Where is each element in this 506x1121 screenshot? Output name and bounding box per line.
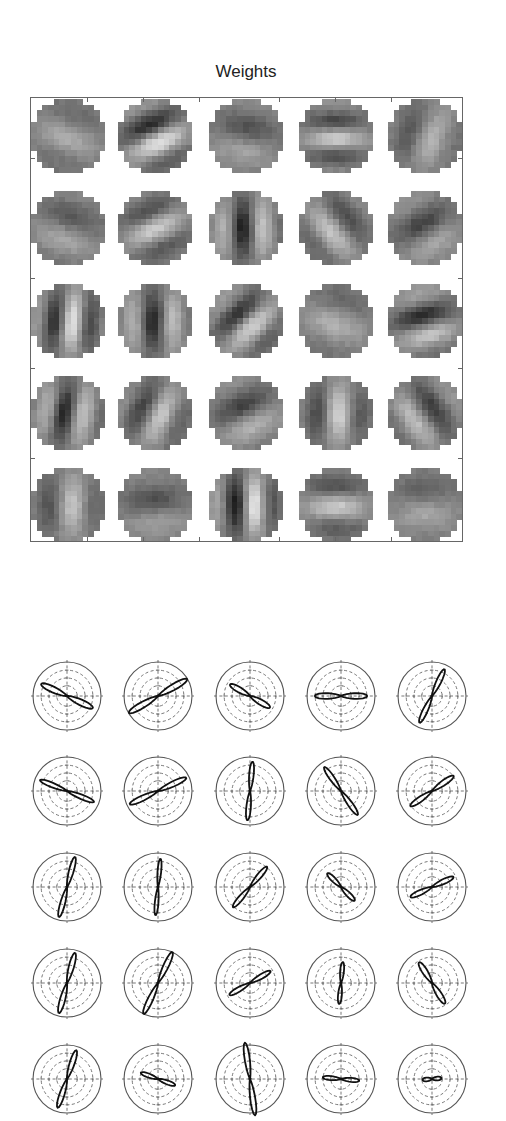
center-dot (249, 790, 252, 793)
polar-plot (120, 849, 196, 925)
center-dot (66, 886, 69, 889)
axis-tick (279, 98, 280, 102)
center-dot (340, 1078, 343, 1081)
axis-tick (279, 537, 280, 541)
center-dot (66, 695, 69, 698)
weights-title: Weights (0, 62, 492, 82)
center-dot (431, 1078, 434, 1081)
polar-plot (29, 849, 105, 925)
polar-plot (29, 945, 105, 1021)
polar-plot (394, 658, 470, 734)
center-dot (66, 1078, 69, 1081)
axis-tick (31, 458, 35, 459)
center-dot (157, 982, 160, 985)
axis-tick (335, 98, 336, 102)
weights-patch-grid (31, 98, 463, 542)
center-dot (249, 886, 252, 889)
center-dot (249, 1078, 252, 1081)
axis-tick (458, 278, 462, 279)
center-dot (340, 982, 343, 985)
center-dot (431, 695, 434, 698)
polar-plot (303, 849, 379, 925)
polar-plot (29, 753, 105, 829)
polar-plot (303, 658, 379, 734)
polar-plot (303, 1041, 379, 1117)
axis-tick (391, 98, 392, 102)
axis-tick (458, 158, 462, 159)
polar-plot (120, 945, 196, 1021)
polar-plot (212, 753, 288, 829)
center-dot (157, 790, 160, 793)
polar-plot (120, 753, 196, 829)
orientation-polar-grid (0, 600, 506, 1114)
center-dot (157, 886, 160, 889)
axis-tick (31, 158, 35, 159)
polar-plot (394, 753, 470, 829)
polar-plot (303, 945, 379, 1021)
polar-plot (394, 849, 470, 925)
polar-plot (212, 1041, 288, 1117)
center-dot (157, 695, 160, 698)
center-dot (340, 695, 343, 698)
axis-tick (391, 537, 392, 541)
polar-plot (303, 753, 379, 829)
center-dot (249, 695, 252, 698)
axis-tick (335, 537, 336, 541)
axis-tick (31, 278, 35, 279)
polar-plot (394, 945, 470, 1021)
center-dot (66, 982, 69, 985)
polar-plot (394, 1041, 470, 1117)
axis-tick (458, 368, 462, 369)
polar-plot (212, 945, 288, 1021)
center-dot (431, 982, 434, 985)
axis-tick (458, 458, 462, 459)
axis-tick (87, 537, 88, 541)
axis-tick (199, 537, 200, 541)
polar-plot (120, 1041, 196, 1117)
polar-plot (29, 658, 105, 734)
center-dot (66, 790, 69, 793)
axis-tick (143, 98, 144, 102)
polar-plot (120, 658, 196, 734)
center-dot (157, 1078, 160, 1081)
center-dot (431, 886, 434, 889)
polar-plot (212, 658, 288, 734)
weights-image-panel (30, 97, 463, 542)
center-dot (431, 790, 434, 793)
center-dot (340, 790, 343, 793)
axis-tick (87, 98, 88, 102)
axis-tick (31, 368, 35, 369)
center-dot (249, 982, 252, 985)
polar-plot (212, 849, 288, 925)
axis-tick (199, 98, 200, 102)
polar-plot (29, 1041, 105, 1117)
center-dot (340, 886, 343, 889)
axis-tick (143, 537, 144, 541)
